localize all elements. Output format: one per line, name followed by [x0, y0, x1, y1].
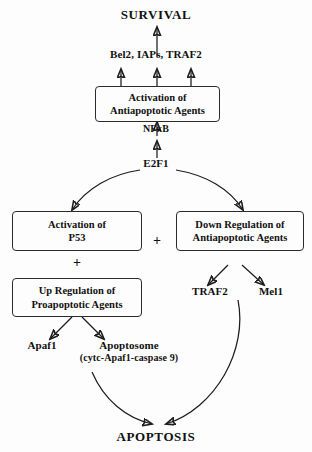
plus-operator-center: + [146, 234, 168, 248]
node-apoptosome-label: Apoptosome [64, 339, 194, 351]
box-line-1: Activation of [110, 91, 205, 104]
node-traf2: TRAF2 [175, 285, 245, 297]
box-line-2: Proapoptotic Agents [31, 298, 122, 311]
box-activation-p53[interactable]: Activation of P53 [12, 211, 142, 251]
arrow-downreg-to-traf2 [208, 265, 228, 285]
pathway-diagram: SURVIVAL Bel2, IAPs, TRAF2 NFκB E2F1 TRA… [0, 0, 312, 452]
node-antiapoptotic-effectors: Bel2, IAPs, TRAF2 [0, 48, 312, 60]
arrow-e2f1-to-p53-curve [72, 170, 140, 210]
node-mcl1: Mel1 [240, 285, 302, 297]
node-nfkb: NFκB [0, 123, 312, 134]
arrow-upreg-to-apoptosome [82, 317, 104, 339]
box-down-regulation-antiapoptotic-agents[interactable]: Down Regulation of Antiapoptotic Agents [176, 211, 304, 251]
plus-operator-left: + [62, 256, 92, 270]
node-survival: SURVIVAL [0, 8, 312, 23]
arrow-e2f1-to-downreg-curve [176, 170, 243, 210]
box-line-1: Up Regulation of [31, 284, 122, 297]
arrow-apoptosome-to-apoptosis-curve [92, 372, 152, 424]
box-line-1: Activation of [48, 218, 106, 231]
box-line-2: Antiapoptotic Agents [110, 104, 205, 117]
arrow-upreg-to-apaf1 [50, 317, 72, 339]
node-e2f1: E2F1 [0, 157, 312, 169]
box-line-2: P53 [48, 231, 106, 244]
box-line-1: Down Regulation of [193, 218, 288, 231]
box-line-2: Antiapoptotic Agents [193, 231, 288, 244]
arrow-downreg-to-mcl1 [242, 265, 264, 285]
node-apoptosis: APOPTOSIS [0, 430, 312, 445]
box-activation-antiapoptotic-agents[interactable]: Activation of Antiapoptotic Agents [95, 86, 220, 122]
node-apoptosome-composition: (cytc-Apaf1-caspase 9) [62, 352, 196, 363]
box-up-regulation-proapoptotic-agents[interactable]: Up Regulation of Proapoptotic Agents [12, 278, 142, 317]
